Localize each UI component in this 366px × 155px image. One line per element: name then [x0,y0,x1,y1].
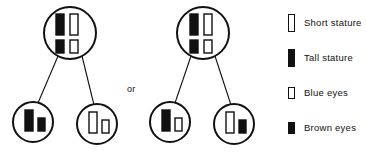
tall-stature-swatch-icon [288,49,295,67]
parent-right-eye-allele-1 [190,40,198,53]
parent-left [44,7,96,59]
child-left-1 [13,102,53,142]
child-left-2 [77,104,117,144]
parent-left-stature-allele-2 [70,14,78,35]
parent-left-eye-allele-1 [56,40,64,53]
parent-right-stature-allele-2 [204,14,212,35]
child-left-1-eye-allele [38,118,45,131]
connector-right-to-child-2 [215,56,231,105]
child-right-1-stature-allele [162,110,170,131]
connector-left-to-child-1 [38,56,58,103]
parent-right [177,7,229,59]
parent-right-eye-allele-2 [204,40,212,53]
child-left-2-eye-allele [102,120,109,133]
parent-right-stature-allele-1 [190,14,198,35]
child-right-2 [214,104,254,144]
legend-label-tall-stature: Tall stature [304,53,353,63]
parent-left-eye-allele-2 [70,40,78,53]
brown-eyes-swatch-icon [288,122,295,134]
child-right-1-eye-allele [175,118,182,131]
legend-label-blue-eyes: Blue eyes [304,88,348,98]
legend-item-tall-stature: Tall stature [288,48,353,68]
connector-left-to-child-2 [82,56,94,105]
family-left [13,7,117,144]
child-left-1-stature-allele [25,110,33,131]
legend: Short stature Tall stature Blue eyes Bro… [288,0,366,155]
legend-label-short-stature: Short stature [304,18,362,28]
legend-label-brown-eyes: Brown eyes [304,123,356,133]
legend-item-brown-eyes: Brown eyes [288,118,356,138]
genetics-inheritance-diagram: or Short stature Tall stature Blue eyes … [0,0,366,155]
blue-eyes-swatch-icon [288,87,295,99]
family-right [150,7,254,144]
child-left-2-stature-allele [89,112,97,133]
parent-right-circle [177,7,229,59]
connector-right-to-child-1 [175,56,191,103]
child-right-2-stature-allele [226,112,234,133]
legend-item-blue-eyes: Blue eyes [288,83,348,103]
child-right-1 [150,102,190,142]
or-separator-label: or [127,84,136,94]
child-right-2-eye-allele [239,120,246,133]
parent-left-stature-allele-1 [56,14,64,35]
short-stature-swatch-icon [288,14,295,32]
legend-item-short-stature: Short stature [288,13,362,33]
